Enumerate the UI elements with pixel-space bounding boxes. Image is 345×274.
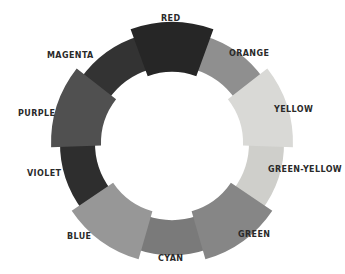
label-yellow: YELLOW: [274, 105, 313, 114]
label-violet: VIOLET: [27, 169, 61, 178]
label-orange: ORANGE: [229, 49, 269, 58]
label-purple: PURPLE: [18, 109, 55, 118]
label-red: RED: [161, 14, 180, 23]
label-blue: BLUE: [67, 232, 91, 241]
label-green-yellow: GREEN-YELLOW: [268, 165, 342, 174]
color-wheel: [0, 0, 345, 274]
label-cyan: CYAN: [158, 254, 183, 263]
label-magenta: MAGENTA: [47, 51, 94, 60]
label-green: GREEN: [238, 230, 270, 239]
